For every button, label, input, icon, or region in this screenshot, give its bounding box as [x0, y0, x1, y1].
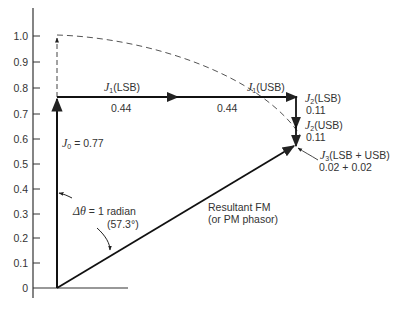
j3-leader	[298, 148, 318, 160]
y-tick: 0.3	[2, 208, 28, 220]
y-tick: 0.5	[2, 158, 28, 170]
j1-usb-value: 0.44	[217, 102, 237, 114]
y-tick: 0.8	[2, 82, 28, 94]
y-tick: 0.9	[2, 56, 28, 68]
j3-value: 0.02 + 0.02	[319, 161, 372, 173]
angle-arc-bottom	[97, 228, 110, 250]
j2-usb-value: 0.11	[306, 131, 326, 143]
y-tick: 0.1	[2, 257, 28, 269]
y-tick: 0.6	[2, 133, 28, 145]
j1-lsb-value: 0.44	[111, 102, 131, 114]
y-tick: 0	[2, 282, 28, 294]
j1-usb-label: J1(USB)	[247, 81, 285, 97]
y-tick: 0.4	[2, 183, 28, 195]
y-tick: 1.0	[2, 30, 28, 42]
resultant-label-line2: (or PM phasor)	[208, 213, 278, 225]
angle-label: Δθ = 1 radian	[73, 205, 136, 217]
y-tick: 0.7	[2, 108, 28, 120]
y-tick: 0.2	[2, 232, 28, 244]
j0-label: J0 = 0.77	[62, 137, 104, 153]
j2-lsb-value: 0.11	[306, 104, 326, 116]
angle-degrees: (57.3°)	[107, 218, 139, 230]
y-axis	[33, 8, 40, 298]
j1-lsb-label: J1(LSB)	[104, 81, 140, 97]
resultant-label-line1: Resultant FM	[208, 201, 270, 213]
angle-arc-top	[59, 193, 72, 198]
